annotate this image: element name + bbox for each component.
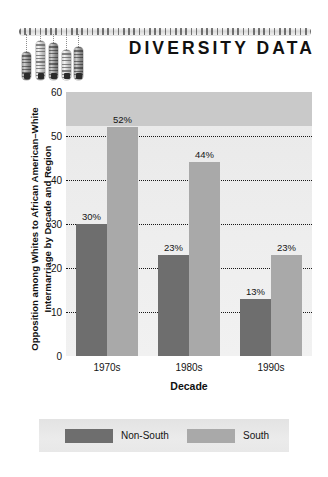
logo-bar-foot-icon-1 bbox=[24, 73, 30, 79]
y-axis-label-line-2: Intermarriage by Decade and Region bbox=[41, 93, 54, 365]
logo-drop-line-icon bbox=[66, 34, 68, 50]
x-tick-label-1980s: 1980s bbox=[148, 362, 230, 373]
y-axis-label-line-1: Opposition among Whites to African Ameri… bbox=[28, 93, 41, 365]
chart-legend: Non-SouthSouth bbox=[39, 419, 289, 452]
bar-1970s-non-south bbox=[76, 224, 107, 356]
bar-1980s-south bbox=[189, 162, 220, 356]
logo-drop-line-icon bbox=[53, 34, 55, 43]
bar-value-label-1980s-non-south: 23% bbox=[152, 242, 195, 253]
plot-area bbox=[66, 92, 312, 356]
logo-bar-foot-icon-2 bbox=[38, 73, 44, 79]
bar-1980s-non-south bbox=[158, 255, 189, 356]
gridline-50 bbox=[66, 136, 312, 137]
bar-chart: 0102030405060 Opposition among Whites to… bbox=[0, 86, 328, 416]
x-axis-label: Decade bbox=[66, 380, 312, 392]
logo-drop-line-icon bbox=[40, 34, 42, 41]
bar-value-label-1970s-non-south: 30% bbox=[70, 211, 113, 222]
bar-value-label-1990s-south: 23% bbox=[265, 242, 308, 253]
legend-entry-non-south: Non-South bbox=[65, 429, 169, 443]
logo-drop-line-icon bbox=[78, 34, 80, 47]
legend-label-south: South bbox=[243, 430, 269, 441]
logo-bar-foot-icon-3 bbox=[51, 73, 57, 79]
legend-entry-south: South bbox=[187, 429, 269, 443]
page-header: DIVERSITY DATA bbox=[0, 0, 328, 86]
page-title: DIVERSITY DATA bbox=[129, 38, 315, 59]
legend-swatch-south bbox=[187, 429, 235, 443]
logo-bar-foot-icon-5 bbox=[76, 73, 82, 79]
legend-swatch-non-south bbox=[65, 429, 113, 443]
logo-drop-line-icon bbox=[26, 34, 28, 52]
bar-value-label-1980s-south: 44% bbox=[183, 149, 226, 160]
x-tick-label-1970s: 1970s bbox=[66, 362, 148, 373]
bar-1970s-south bbox=[107, 127, 138, 356]
logo-rail-icon bbox=[19, 28, 311, 35]
bar-1990s-non-south bbox=[240, 299, 271, 356]
y-axis-label: Opposition among Whites to African Ameri… bbox=[28, 93, 54, 365]
x-tick-label-1990s: 1990s bbox=[230, 362, 312, 373]
bar-value-label-1970s-south: 52% bbox=[101, 114, 144, 125]
logo-bar-foot-icon-4 bbox=[64, 73, 70, 79]
bar-1990s-south bbox=[271, 255, 302, 356]
legend-label-non-south: Non-South bbox=[121, 430, 169, 441]
bar-value-label-1990s-non-south: 13% bbox=[234, 286, 277, 297]
